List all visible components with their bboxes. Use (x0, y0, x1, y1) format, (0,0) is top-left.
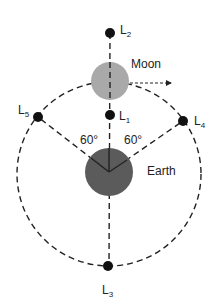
L1-label: L1 (119, 110, 130, 125)
L1-point (105, 110, 115, 120)
moon-label: Moon (131, 58, 161, 70)
L4-point (178, 116, 188, 126)
L2-label: L2 (120, 24, 131, 39)
L3-point (103, 261, 113, 271)
L2-point (105, 28, 115, 38)
L3-label: L3 (102, 284, 113, 299)
angle-left-label: 60° (80, 134, 98, 146)
L5-point (33, 112, 43, 122)
angle-right-label: 60° (124, 134, 142, 146)
earth-label: Earth (147, 165, 176, 177)
lagrange-diagram (0, 0, 215, 304)
L5-label: L5 (18, 104, 29, 119)
L4-label: L4 (194, 115, 205, 130)
